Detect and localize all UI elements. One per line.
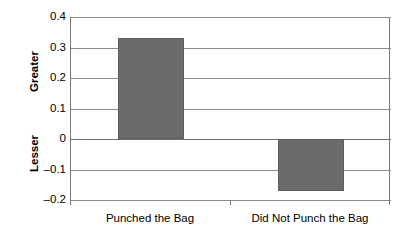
plot-area: [70, 17, 390, 200]
x-axis-label-did-not-punch-the-bag: Did Not Punch the Bag: [230, 212, 390, 225]
y-tick-label-3: 0.1: [26, 103, 66, 115]
x-axis-label-punched-the-bag: Punched the Bag: [70, 212, 230, 225]
y-tick-label-0: 0.4: [26, 11, 66, 23]
bar-punched-the-bag: [118, 38, 184, 139]
x-tick-mark-left: [70, 200, 71, 205]
bar-chart: 0.4 0.3 0.2 0.1 0 –0.1 –0.2 Greater Less…: [0, 0, 413, 238]
y-tick-label-6: –0.2: [26, 194, 66, 206]
x-tick-mark-right: [389, 200, 390, 205]
x-tick-mark-middle: [230, 200, 231, 205]
bar-did-not-punch-the-bag: [278, 139, 344, 191]
y-axis-tick-labels: 0.4 0.3 0.2 0.1 0 –0.1 –0.2: [18, 0, 66, 238]
axis-direction-label-lesser: Lesser: [28, 135, 40, 172]
axis-direction-label-greater: Greater: [28, 51, 40, 92]
gridline-0.4: [71, 17, 391, 18]
gridline-neg-0.2: [71, 200, 391, 201]
